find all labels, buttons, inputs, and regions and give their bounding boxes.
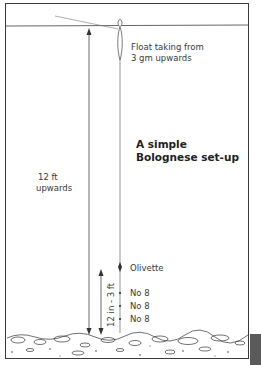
depth-label-line1: 12 ft <box>36 172 72 183</box>
weight-label-shot: No 8 <box>130 314 150 325</box>
float-icon <box>118 20 123 61</box>
depth-label-line2: upwards <box>36 183 72 194</box>
lake-bed-gravel <box>11 345 229 356</box>
depth-arrow <box>87 28 92 335</box>
lake-bed <box>7 330 248 355</box>
shot-weight-icon <box>119 305 121 307</box>
depth-label: 12 ft upwards <box>36 172 72 194</box>
weight-label-olivette: Olivette <box>130 263 164 274</box>
tail-length-arrow <box>99 269 104 335</box>
float-label-line2: 3 gm upwards <box>131 53 204 64</box>
weight-label-shot: No 8 <box>130 301 150 312</box>
diagram-title: A simple Bolognese set-up <box>136 138 239 164</box>
fishing-line-from-rod <box>55 16 118 29</box>
shot-weight-icon <box>119 318 121 320</box>
title-line2: Bolognese set-up <box>136 151 239 164</box>
water-surface-line <box>6 25 248 26</box>
weight-label-shot: No 8 <box>130 288 150 299</box>
title-line1: A simple <box>136 138 239 151</box>
float-label-line1: Float taking from <box>131 42 204 53</box>
shot-weight-icon <box>119 292 121 294</box>
float-label: Float taking from 3 gm upwards <box>131 42 204 64</box>
olivette-weight-icon <box>118 262 122 272</box>
tail-length-label: 12 in - 3 ft <box>106 283 116 327</box>
